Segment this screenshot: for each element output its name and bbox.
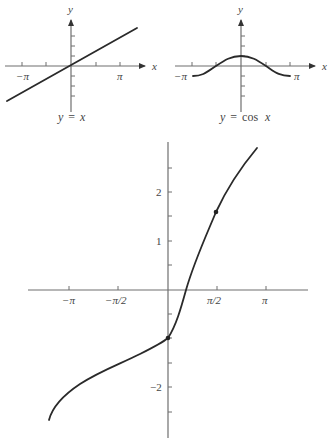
plot-y-equals-x: y x −π π y = x (5, 3, 157, 124)
marked-point-0-neg1 (166, 336, 171, 341)
x-tick-label-pi: π (262, 294, 268, 306)
x-tick-label-pi-half: π/2 (207, 294, 222, 306)
x-axis-label: x (151, 60, 157, 72)
plot-y-equals-cos-x: y x −π π y = cos x (174, 3, 327, 124)
caption-y-equals-x: y = x (57, 110, 86, 124)
y-tick-label-1: 1 (156, 235, 162, 247)
y-tick-label-2: 2 (156, 186, 162, 198)
y-axis-label: y (67, 3, 73, 15)
x-tick-label-neg-pi-half: −π/2 (105, 294, 127, 306)
x-tick-label-neg-pi: −π (174, 70, 187, 82)
y-axis-label: y (237, 3, 243, 15)
x-tick-label-neg-pi: −π (62, 294, 75, 306)
caption-y-equals-cos-x: y = cos x (219, 110, 271, 124)
line-y-equals-x (7, 28, 137, 101)
x-axis-label: x (321, 60, 327, 72)
x-tick-label-pi: π (294, 70, 300, 82)
plot-main: −π −π/2 π/2 π 2 1 −2 (28, 142, 308, 438)
x-tick-label-pi: π (117, 70, 123, 82)
figure-canvas: y x −π π y = x y x −π π (0, 0, 332, 447)
marked-point-pi2-pi2 (214, 210, 219, 215)
x-tick-label-neg-pi: −π (16, 70, 29, 82)
main-curve (49, 148, 257, 420)
y-tick-label-neg-2: −2 (150, 381, 162, 393)
